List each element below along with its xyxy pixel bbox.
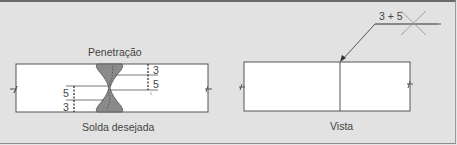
plate-view [244, 62, 410, 111]
dim-5-right: 5 [153, 78, 159, 90]
label-solda-desejada: Solda desejada [82, 121, 155, 133]
dim-3-left: 3 [63, 101, 69, 113]
label-penetracao: Penetração [88, 46, 142, 58]
left-figure: 3 5 5 3 Penetração Solda desejada [10, 46, 212, 133]
label-vista: Vista [330, 120, 353, 132]
weld-size-text: 3 + 5 [379, 10, 403, 22]
weld-diagram: 3 5 5 3 Penetração Solda desejada 3 + 5 … [0, 0, 457, 145]
leader-line [343, 24, 441, 59]
dim-5-left: 5 [63, 87, 69, 99]
dim-3-right: 3 [153, 64, 159, 76]
right-figure: 3 + 5 Vista [239, 10, 441, 132]
